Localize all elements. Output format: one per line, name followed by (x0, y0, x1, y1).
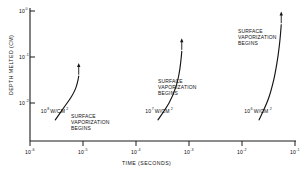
svg-text:BEGINS: BEGINS (71, 125, 91, 131)
y-tick-label: 10 0 (19, 7, 28, 14)
svg-text:10: 10 (41, 108, 47, 114)
svg-text:-1: -1 (26, 53, 29, 57)
annotation-arrow-2 (180, 38, 183, 50)
x-axis-title: TIME (SECONDS) (122, 160, 171, 166)
svg-text:10: 10 (19, 8, 25, 14)
x-tick-label: 10 -2 (237, 148, 247, 155)
annotation-arrow-3 (280, 12, 283, 24)
svg-text:2: 2 (66, 107, 68, 111)
annotation-label-1: SURFACE VAPORIZATION BEGINS (71, 113, 110, 131)
svg-text:7: 7 (152, 107, 154, 111)
svg-text:2: 2 (270, 107, 272, 111)
figure-melt-depth-vs-time: 10 0 10 -1 10 -2 DEPTH MELTED (CM) 10 -6… (0, 0, 304, 173)
svg-text:10: 10 (19, 54, 25, 60)
annotation-arrow-1 (77, 63, 80, 75)
svg-text:10: 10 (25, 149, 31, 155)
svg-text:6: 6 (251, 107, 253, 111)
svg-text:10: 10 (184, 149, 190, 155)
y-axis-title: DEPTH MELTED (CM) (8, 35, 14, 95)
svg-text:BEGINS: BEGINS (238, 40, 258, 46)
svg-text:2: 2 (171, 107, 173, 111)
y-tick-label: 10 -2 (19, 99, 29, 106)
svg-text:10: 10 (244, 108, 250, 114)
svg-text:-4: -4 (137, 148, 140, 152)
power-label-1e6: 10 6 W/CM 2 (244, 107, 272, 114)
x-tick-label: 10 -5 (78, 148, 88, 155)
chart-canvas: 10 0 10 -1 10 -2 DEPTH MELTED (CM) 10 -6… (0, 0, 304, 173)
x-tick-label: 10 -6 (25, 148, 35, 155)
svg-text:-6: -6 (31, 148, 34, 152)
svg-text:10: 10 (78, 149, 84, 155)
annotation-label-2: SURFACE VAPORIZATION BEGINS (158, 78, 197, 96)
svg-text:10: 10 (131, 149, 137, 155)
power-label-1e8: 10 8 W/CM 2 (41, 107, 69, 114)
svg-text:-2: -2 (243, 148, 246, 152)
svg-text:-3: -3 (190, 148, 193, 152)
svg-text:-1: -1 (296, 148, 299, 152)
svg-text:BEGINS: BEGINS (158, 90, 178, 96)
power-label-1e7: 10 7 W/CM 2 (145, 107, 173, 114)
y-tick-label: 10 -1 (19, 53, 29, 60)
svg-text:10: 10 (237, 149, 243, 155)
x-tick-label: 10 -4 (131, 148, 141, 155)
svg-text:-5: -5 (84, 148, 87, 152)
svg-text:W/CM: W/CM (50, 108, 65, 114)
svg-text:-2: -2 (26, 99, 29, 103)
svg-text:W/CM: W/CM (155, 108, 170, 114)
svg-text:W/CM: W/CM (254, 108, 269, 114)
svg-text:10: 10 (145, 108, 151, 114)
x-tick-label: 10 -3 (184, 148, 194, 155)
svg-text:0: 0 (26, 7, 28, 11)
svg-text:8: 8 (47, 107, 49, 111)
svg-text:10: 10 (290, 149, 296, 155)
x-tick-label: 10 -1 (290, 148, 300, 155)
annotation-label-3: SURFACE VAPORIZATION BEGINS (238, 28, 277, 46)
svg-text:10: 10 (19, 100, 25, 106)
